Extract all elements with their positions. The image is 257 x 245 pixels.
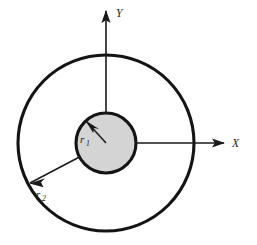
x-axis-label: X [231,137,240,149]
figure-container: X Y r 1 r 2 [0,0,257,245]
r2-label-symbol: r [36,188,41,200]
concentric-circles-diagram: X Y r 1 r 2 [0,0,257,245]
y-axis-label: Y [116,7,124,19]
r1-label-subscript: 1 [86,139,90,148]
r2-label-subscript: 2 [42,194,46,203]
r1-label-symbol: r [80,133,85,145]
